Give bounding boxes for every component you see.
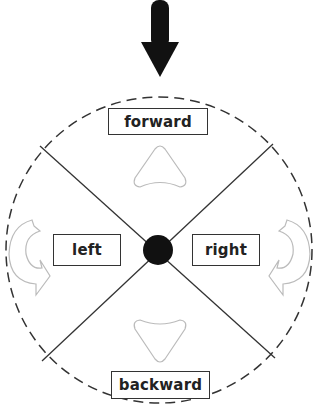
forward-label: forward xyxy=(108,108,208,135)
direction-wheel xyxy=(0,0,319,418)
triangle-down-icon xyxy=(134,320,186,362)
left-label: left xyxy=(53,234,121,266)
right-label: right xyxy=(192,234,260,266)
backward-label-text: backward xyxy=(119,376,202,394)
rotate-clockwise-icon xyxy=(269,220,310,295)
backward-label: backward xyxy=(111,371,210,399)
left-label-text: left xyxy=(72,241,102,259)
forward-label-text: forward xyxy=(124,113,192,131)
down-arrow-icon xyxy=(141,0,179,77)
center-dot xyxy=(143,235,173,265)
rotate-counterclockwise-icon xyxy=(9,220,50,295)
triangle-up-icon xyxy=(134,146,186,187)
right-label-text: right xyxy=(205,241,247,259)
